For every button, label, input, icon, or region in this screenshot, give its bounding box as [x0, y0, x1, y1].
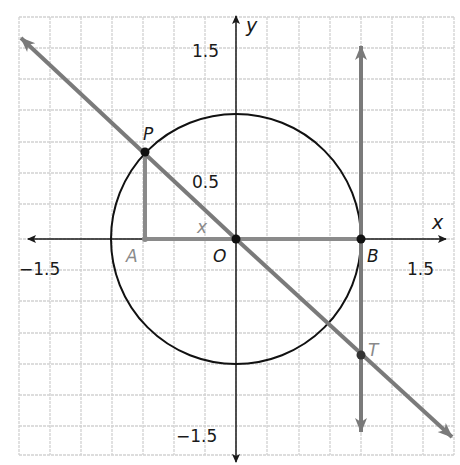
label-o: O — [213, 246, 226, 266]
x-axis-label: x — [431, 211, 444, 233]
label-t: T — [368, 340, 380, 360]
tick-x-neg-1-5: −1.5 — [19, 259, 60, 279]
tick-y-neg-1-5: −1.5 — [176, 426, 217, 446]
point-p — [141, 148, 150, 157]
point-t — [357, 351, 366, 360]
tick-y-0-5: 0.5 — [192, 172, 219, 192]
terminal-line-up — [21, 38, 236, 239]
tick-x-1-5: 1.5 — [407, 259, 434, 279]
label-a: A — [125, 246, 138, 266]
y-axis-label: y — [245, 14, 258, 36]
tick-y-1-5: 1.5 — [192, 41, 219, 61]
angle-label-x: x — [196, 217, 208, 237]
point-o — [232, 235, 241, 244]
label-p: P — [143, 124, 154, 144]
point-a — [142, 236, 148, 242]
point-b — [357, 235, 366, 244]
unit-circle-diagram: 1.5 0.5 −1.5 1.5 −1.5 y x P A O B T x — [0, 0, 460, 465]
label-b: B — [367, 246, 379, 266]
